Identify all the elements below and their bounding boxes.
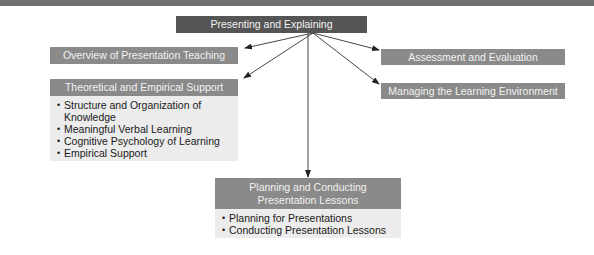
- list-item: Cognitive Psychology of Learning: [58, 135, 238, 147]
- node-managing-label: Managing the Learning Environment: [388, 85, 557, 98]
- node-overview: Overview of Presentation Teaching: [50, 47, 238, 64]
- node-assessment-label: Assessment and Evaluation: [408, 51, 538, 64]
- list-item: Meaningful Verbal Learning: [58, 123, 238, 135]
- list-item: Empirical Support: [58, 147, 238, 159]
- node-planning-header: Planning and Conducting Presentation Les…: [215, 178, 401, 209]
- root-node: Presenting and Explaining: [176, 16, 367, 33]
- list-item: Planning for Presentations: [223, 212, 401, 224]
- list-item: Conducting Presentation Lessons: [223, 224, 401, 236]
- arrow-to-managing: [313, 33, 379, 84]
- arrow-to-assessment: [313, 33, 379, 50]
- list-item: Structure and Organization of Knowledge: [58, 99, 238, 123]
- node-theoretical-header: Theoretical and Empirical Support: [50, 79, 238, 96]
- node-assessment: Assessment and Evaluation: [381, 49, 565, 65]
- arrow-to-overview: [245, 33, 313, 48]
- arrow-to-theoretical: [244, 33, 313, 78]
- node-planning-label: Planning and Conducting Presentation Les…: [235, 181, 381, 206]
- node-managing: Managing the Learning Environment: [381, 83, 565, 99]
- node-overview-label: Overview of Presentation Teaching: [63, 49, 225, 62]
- root-node-label: Presenting and Explaining: [210, 18, 332, 31]
- node-theoretical-label: Theoretical and Empirical Support: [65, 81, 223, 94]
- node-theoretical-list: Structure and Organization of Knowledge …: [50, 96, 238, 161]
- node-planning-list: Planning for Presentations Conducting Pr…: [215, 209, 401, 238]
